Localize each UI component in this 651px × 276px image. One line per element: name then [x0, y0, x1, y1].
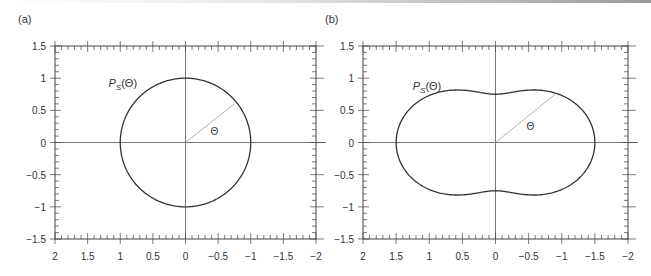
curve-label: PS(Θ) [109, 77, 138, 92]
theta-label: Θ [526, 121, 534, 132]
x-tick-label: −2 [622, 251, 634, 262]
x-tick-label: −1.5 [274, 251, 294, 262]
curve-label-arg: (Θ) [121, 77, 137, 89]
x-tick-label: 1 [117, 251, 123, 262]
x-tick-label: −1 [556, 251, 568, 262]
x-tick-label: −1 [245, 251, 257, 262]
y-tick-label: −0.5 [26, 170, 46, 181]
figure: (a)21.510.50−0.5−1−1.5−21.510.50−0.5−1−1… [0, 0, 651, 276]
y-tick-label: 0.5 [340, 105, 354, 116]
x-tick-label: 1.5 [389, 251, 403, 262]
y-tick-label: −0.5 [334, 170, 354, 181]
y-tick-label: −1 [35, 202, 47, 213]
x-tick-label: 0 [183, 251, 189, 262]
x-tick-label: −1.5 [585, 251, 605, 262]
y-tick-label: 0.5 [32, 105, 46, 116]
y-tick-label: 0 [40, 138, 46, 149]
theta-label: Θ [211, 126, 219, 137]
y-tick-label: −1.5 [26, 234, 46, 245]
panel-label: (b) [325, 13, 338, 25]
panel-label: (a) [18, 13, 31, 25]
x-tick-label: −0.5 [519, 251, 539, 262]
x-tick-label: 1.5 [81, 251, 95, 262]
x-tick-label: −2 [310, 251, 322, 262]
chart-panel-a: (a)21.510.50−0.5−1−1.5−21.510.50−0.5−1−1… [18, 13, 326, 262]
y-tick-label: 1.5 [32, 41, 46, 52]
y-tick-label: −1 [343, 202, 355, 213]
y-tick-label: 1 [348, 73, 354, 84]
chart-panel-b: (b)21.510.50−0.5−1−1.5−21.510.50−0.5−1−1… [325, 13, 638, 262]
y-tick-label: −1.5 [334, 234, 354, 245]
x-tick-label: −0.5 [208, 251, 228, 262]
y-tick-label: 0 [348, 138, 354, 149]
y-tick-label: 1 [40, 73, 46, 84]
y-tick-label: 1.5 [340, 41, 354, 52]
x-tick-label: 2 [360, 251, 366, 262]
x-tick-label: 2 [52, 251, 58, 262]
x-tick-label: 0 [493, 251, 499, 262]
x-tick-label: 0.5 [455, 251, 469, 262]
curve-label-arg: (Θ) [425, 80, 441, 92]
x-tick-label: 0.5 [146, 251, 160, 262]
angle-line [496, 94, 556, 142]
x-tick-label: 1 [426, 251, 432, 262]
